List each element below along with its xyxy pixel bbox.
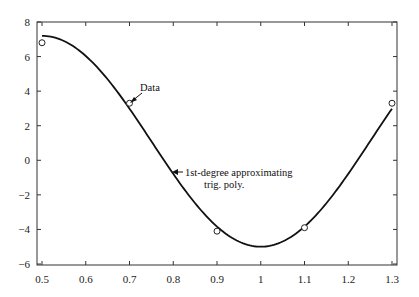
- y-tick-label: −2: [18, 189, 30, 201]
- curve-label-line1: 1st-degree approximating: [185, 167, 293, 178]
- y-tick-label: 6: [25, 51, 31, 63]
- x-tick-label: 1.3: [385, 273, 399, 285]
- data-point: [302, 225, 308, 231]
- data-label: Data: [140, 82, 160, 93]
- x-tick-label: 0.9: [210, 273, 224, 285]
- x-tick-label: 1: [258, 273, 264, 285]
- data-point: [389, 100, 395, 106]
- data-point: [214, 228, 220, 234]
- y-tick-label: −4: [18, 223, 30, 235]
- y-axis-ticks: 86420−2−4−6: [18, 16, 397, 270]
- curve-annotation: 1st-degree approximating trig. poly.: [172, 167, 293, 190]
- y-tick-label: 2: [25, 120, 31, 132]
- x-tick-label: 0.7: [123, 273, 137, 285]
- x-tick-label: 0.6: [79, 273, 93, 285]
- x-tick-label: 1.1: [298, 273, 312, 285]
- chart: 0.50.60.70.80.911.11.21.3 86420−2−4−6 Da…: [0, 0, 419, 297]
- y-tick-label: 8: [25, 16, 31, 28]
- y-tick-label: 4: [25, 85, 31, 97]
- data-point: [39, 40, 45, 46]
- curve-label-line2: trig. poly.: [204, 179, 244, 190]
- data-points: [39, 40, 395, 234]
- x-axis-ticks: 0.50.60.70.80.911.11.21.3: [35, 22, 399, 285]
- x-tick-label: 1.2: [341, 273, 355, 285]
- x-tick-label: 0.8: [166, 273, 180, 285]
- y-tick-label: −6: [18, 258, 30, 270]
- data-annotation: Data: [130, 82, 160, 103]
- approximating-curve: [42, 36, 392, 247]
- x-tick-label: 0.5: [35, 273, 49, 285]
- y-tick-label: 0: [25, 154, 31, 166]
